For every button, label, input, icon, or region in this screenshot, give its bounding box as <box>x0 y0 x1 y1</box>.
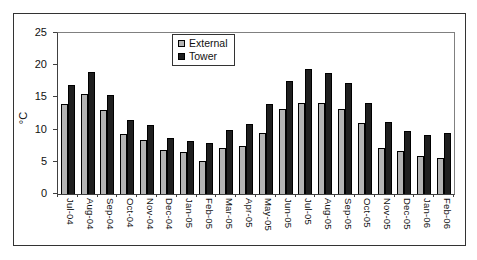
bar-tower-Nov-05 <box>385 122 392 194</box>
y-tick-mark-15 <box>53 96 57 97</box>
bar-tower-Dec-04 <box>167 138 174 194</box>
y-axis-title: °C <box>17 103 29 133</box>
bar-tower-Dec-05 <box>404 131 411 194</box>
x-tick-label-Nov-04: Nov-04 <box>145 198 156 230</box>
bar-tower-Jan-05 <box>187 141 194 194</box>
legend-item-external: External <box>178 38 228 49</box>
chart-canvas: °C ExternalTower 0510152025Jul-04Aug-04S… <box>0 0 477 260</box>
bar-group-Sep-04 <box>98 33 118 194</box>
bar-tower-Feb-05 <box>206 143 213 194</box>
x-tick-mark-18 <box>413 194 414 197</box>
x-tick-label-May-05: May-05 <box>263 198 274 231</box>
y-tick-label-20: 20 <box>35 58 47 70</box>
y-tick-mark-25 <box>53 32 57 33</box>
x-tick-label-Mar-05: Mar-05 <box>224 198 235 229</box>
plot-area <box>57 32 455 195</box>
bar-group-Dec-05 <box>395 33 415 194</box>
y-tick-mark-10 <box>53 129 57 130</box>
legend-swatch-tower <box>178 53 185 60</box>
bar-tower-Aug-04 <box>88 72 95 194</box>
bar-group-Nov-04 <box>137 33 157 194</box>
x-tick-mark-8 <box>215 194 216 197</box>
bar-external-Jun-05 <box>279 109 286 194</box>
x-tick-mark-14 <box>334 194 335 197</box>
bar-series-container <box>58 33 454 194</box>
x-tick-mark-5 <box>156 194 157 197</box>
x-tick-label-Sep-05: Sep-05 <box>343 198 354 230</box>
x-tick-label-Dec-05: Dec-05 <box>402 198 413 230</box>
bar-tower-Nov-04 <box>147 125 154 194</box>
bar-group-Jul-05 <box>296 33 316 194</box>
x-tick-label-Jul-04: Jul-04 <box>65 198 76 225</box>
bar-group-Sep-05 <box>335 33 355 194</box>
x-tick-label-Apr-05: Apr-05 <box>244 198 255 228</box>
x-tick-mark-19 <box>433 194 434 197</box>
legend-item-tower: Tower <box>178 51 228 62</box>
bar-external-May-05 <box>259 133 266 194</box>
x-tick-mark-1 <box>77 194 78 197</box>
y-tick-mark-20 <box>53 64 57 65</box>
x-tick-label-Jun-05: Jun-05 <box>283 198 294 228</box>
x-tick-mark-15 <box>354 194 355 197</box>
x-tick-label-Jan-05: Jan-05 <box>184 198 195 228</box>
y-tick-label-0: 0 <box>41 187 47 199</box>
x-tick-label-Aug-05: Aug-05 <box>323 198 334 230</box>
x-tick-label-Nov-05: Nov-05 <box>382 198 393 230</box>
x-tick-mark-2 <box>97 194 98 197</box>
bar-tower-Sep-05 <box>345 83 352 194</box>
bar-group-Feb-06 <box>434 33 454 194</box>
bar-external-Nov-04 <box>140 140 147 194</box>
bar-tower-Sep-04 <box>107 95 114 194</box>
bar-group-Jul-04 <box>58 33 78 194</box>
bar-group-Jan-06 <box>414 33 434 194</box>
bar-external-Sep-04 <box>100 110 107 194</box>
bar-tower-Jan-06 <box>424 135 431 194</box>
x-tick-mark-4 <box>136 194 137 197</box>
bar-tower-Feb-06 <box>444 133 451 194</box>
bar-external-Nov-05 <box>378 148 385 194</box>
x-tick-mark-3 <box>116 194 117 197</box>
bar-external-Mar-05 <box>219 148 226 194</box>
bar-group-Oct-05 <box>355 33 375 194</box>
y-tick-label-10: 10 <box>35 123 47 135</box>
legend-label-external: External <box>189 38 228 49</box>
bar-external-Dec-05 <box>397 151 404 194</box>
x-tick-label-Feb-06: Feb-06 <box>442 198 453 229</box>
bar-group-Aug-04 <box>78 33 98 194</box>
x-tick-mark-20 <box>453 194 454 197</box>
x-tick-mark-9 <box>235 194 236 197</box>
x-tick-mark-11 <box>275 194 276 197</box>
x-tick-label-Feb-05: Feb-05 <box>204 198 215 229</box>
bar-group-Nov-05 <box>375 33 395 194</box>
x-tick-mark-12 <box>295 194 296 197</box>
legend-swatch-external <box>178 40 185 47</box>
x-tick-mark-7 <box>196 194 197 197</box>
bar-external-Sep-05 <box>338 109 345 194</box>
bar-tower-Jul-05 <box>305 69 312 194</box>
bar-external-Jan-05 <box>180 152 187 195</box>
bar-external-Feb-05 <box>199 161 206 194</box>
x-tick-label-Jul-05: Jul-05 <box>303 198 314 225</box>
bar-external-Apr-05 <box>239 146 246 194</box>
x-tick-mark-13 <box>314 194 315 197</box>
bar-group-Aug-05 <box>315 33 335 194</box>
bar-external-Aug-05 <box>318 103 325 194</box>
bar-external-Jul-04 <box>61 104 68 194</box>
x-tick-label-Jan-06: Jan-06 <box>422 198 433 228</box>
x-tick-label-Aug-04: Aug-04 <box>85 198 96 230</box>
bar-external-Oct-04 <box>120 134 127 194</box>
y-tick-label-5: 5 <box>41 155 47 167</box>
bar-external-Oct-05 <box>358 123 365 194</box>
bar-external-Dec-04 <box>160 150 167 194</box>
x-tick-mark-17 <box>394 194 395 197</box>
bar-group-Jun-05 <box>276 33 296 194</box>
bar-external-Jan-06 <box>417 156 424 194</box>
x-tick-mark-16 <box>374 194 375 197</box>
x-tick-label-Sep-04: Sep-04 <box>105 198 116 230</box>
bar-tower-Jul-04 <box>68 85 75 194</box>
bar-tower-Oct-05 <box>365 103 372 194</box>
bar-tower-Mar-05 <box>226 130 233 194</box>
x-tick-mark-10 <box>255 194 256 197</box>
y-tick-label-25: 25 <box>35 26 47 38</box>
bar-group-Apr-05 <box>236 33 256 194</box>
